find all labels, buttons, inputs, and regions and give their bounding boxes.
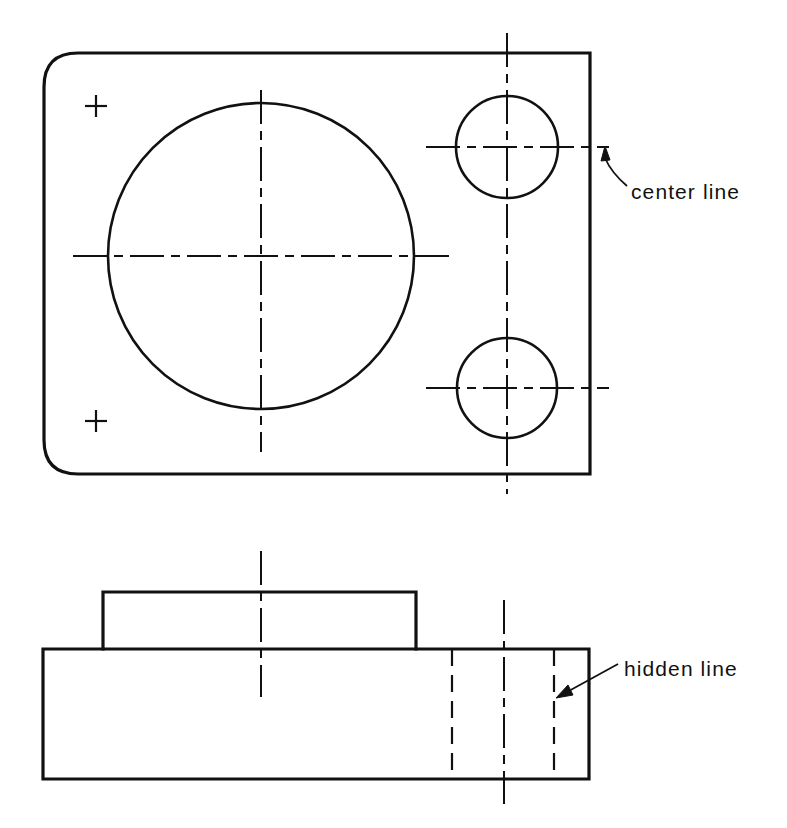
canvas-background — [0, 0, 787, 828]
technical-drawing-page: center line hidden line — [0, 0, 787, 828]
drawing-canvas: center line hidden line — [0, 0, 787, 828]
annotation-label-hidden-line: hidden line — [624, 657, 738, 680]
annotation-label-center-line: center line — [631, 180, 740, 203]
